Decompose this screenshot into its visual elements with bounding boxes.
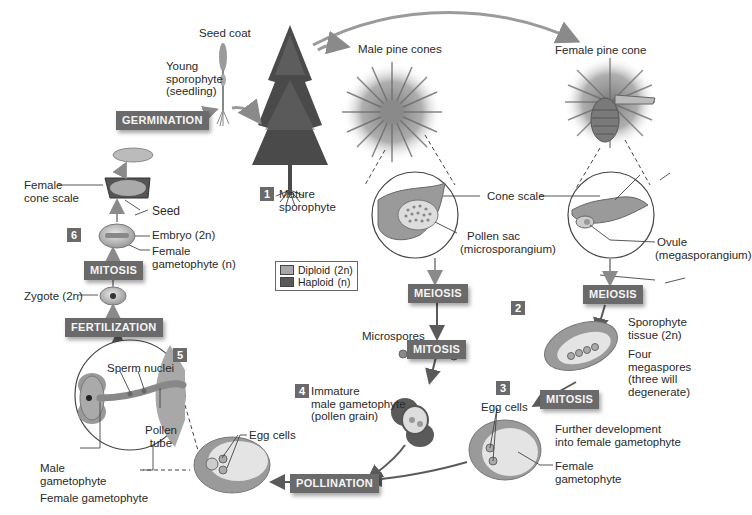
label-young-sporophyte: Young sporophyte (seedling): [166, 60, 223, 98]
label-male-pine-cones: Male pine cones: [358, 43, 442, 56]
label-female-gametophyte-right: Female gametophyte: [555, 460, 622, 485]
arrow-tree-to-female-cone: [313, 13, 575, 46]
label-sperm-nuclei: Sperm nuclei: [107, 362, 174, 375]
label-embryo: Embryo (2n): [152, 229, 215, 242]
step-number-1: 1: [260, 187, 274, 201]
stage-pollination: POLLINATION: [290, 474, 379, 493]
step-number-4: 4: [295, 384, 309, 398]
stage-mitosis-male: MITOSIS: [407, 340, 466, 359]
stage-meiosis-female: MEIOSIS: [583, 285, 643, 304]
mature-tree: [252, 25, 328, 206]
diploid-swatch: [280, 265, 294, 275]
label-further-development: Further development into female gametoph…: [555, 423, 681, 448]
stage-mitosis-seed: MITOSIS: [84, 261, 143, 280]
label-zygote: Zygote (2n): [24, 290, 83, 303]
label-female-gametophyte-n: Female gametophyte (n): [152, 245, 236, 270]
step-number-5: 5: [173, 348, 187, 362]
label-egg-cells-bottom: Egg cells: [249, 429, 296, 442]
megaspores-ovule: [538, 312, 624, 379]
step-number-2: 2: [511, 301, 525, 315]
label-mature-sporophyte: Mature sporophyte: [279, 188, 336, 213]
stage-germination: GERMINATION: [116, 111, 209, 130]
label-egg-cells-right: Egg cells: [481, 401, 528, 414]
stage-mitosis-female: MITOSIS: [540, 390, 599, 409]
label-seed: Seed: [152, 205, 180, 218]
female-pine-cone: [564, 56, 656, 148]
label-female-cone-scale: Female cone scale: [24, 179, 79, 204]
male-pine-cones: [342, 62, 442, 162]
label-ovule: Ovule (megasporangium): [657, 236, 752, 261]
label-cone-scale: Cone scale: [487, 190, 545, 203]
haploid-swatch: [280, 277, 294, 287]
step-number-6: 6: [67, 228, 81, 242]
label-four-megaspores: Four megaspores (three will degenerate): [628, 348, 691, 398]
label-pollen-tube: Pollen tube: [145, 424, 177, 449]
label-female-gametophyte-bottom: Female gametophyte: [40, 492, 148, 505]
female-gametophyte-ovule: [469, 408, 553, 480]
label-pollen-sac: Pollen sac (microsporangium): [460, 230, 556, 255]
label-immature-male-gametophyte: Immature male gametophyte (pollen grain): [311, 385, 406, 423]
step-number-3: 3: [496, 381, 510, 395]
stage-fertilization: FERTILIZATION: [65, 318, 163, 337]
label-female-pine-cone: Female pine cone: [555, 44, 646, 57]
label-sporophyte-tissue: Sporophyte tissue (2n): [628, 316, 687, 341]
label-seed-coat: Seed coat: [199, 27, 251, 40]
legend-diploid: Diploid (2n): [280, 264, 353, 276]
stage-meiosis-male: MEIOSIS: [408, 284, 468, 303]
legend-haploid: Haploid (n): [280, 276, 353, 288]
label-male-gametophyte: Male gametophyte: [40, 462, 107, 487]
ploidy-legend: Diploid (2n) Haploid (n): [275, 261, 358, 291]
winged-seed: [113, 148, 153, 162]
